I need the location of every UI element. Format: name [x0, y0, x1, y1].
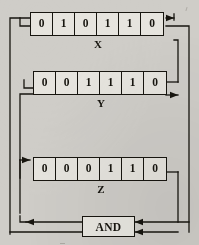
register-z-cell-4[interactable]: 1 — [122, 158, 144, 180]
register-x-cell-2[interactable]: 0 — [75, 13, 97, 35]
wire-inner-left-rail — [20, 94, 33, 213]
register-z-cell-0[interactable]: 0 — [34, 158, 56, 180]
register-z-cell-1[interactable]: 0 — [56, 158, 78, 180]
register-y-cell-1[interactable]: 0 — [56, 72, 78, 94]
register-z-cell-5[interactable]: 0 — [144, 158, 166, 180]
register-y-cell-2[interactable]: 1 — [78, 72, 100, 94]
register-x-cell-1[interactable]: 1 — [53, 13, 75, 35]
register-z-cell-3[interactable]: 1 — [100, 158, 122, 180]
register-y-cell-3[interactable]: 1 — [100, 72, 122, 94]
wire-x-left-stub — [20, 18, 30, 26]
register-x-cell-5[interactable]: 0 — [141, 13, 163, 35]
register-z-cell-2[interactable]: 0 — [78, 158, 100, 180]
register-z[interactable]: 0 0 0 1 1 0 — [33, 157, 167, 181]
register-x-label: X — [83, 38, 113, 50]
diagram-canvas: 0 1 0 1 1 0 X 0 0 1 1 1 0 Y 0 0 0 1 1 0 … — [0, 0, 199, 245]
register-y-label: Y — [86, 97, 116, 109]
and-gate-box[interactable]: AND — [82, 216, 135, 237]
register-x-cell-3[interactable]: 1 — [97, 13, 119, 35]
register-x-cell-4[interactable]: 1 — [119, 13, 141, 35]
scan-speck — [60, 243, 65, 244]
register-z-label: Z — [86, 183, 116, 195]
register-y[interactable]: 0 0 1 1 1 0 — [33, 71, 167, 95]
register-y-cell-4[interactable]: 1 — [122, 72, 144, 94]
register-x-cell-0[interactable]: 0 — [31, 13, 53, 35]
wire-and-output-to-inner-rail — [20, 216, 26, 222]
wire-y-out-riser — [174, 40, 178, 82]
wiring-layer — [0, 0, 199, 245]
register-x[interactable]: 0 1 0 1 1 0 — [30, 12, 164, 36]
register-y-cell-5[interactable]: 0 — [144, 72, 166, 94]
wire-y-left-stub — [24, 80, 33, 88]
register-y-cell-0[interactable]: 0 — [34, 72, 56, 94]
